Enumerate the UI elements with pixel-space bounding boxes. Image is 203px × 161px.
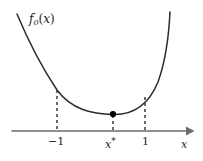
function-label-close-paren: ) xyxy=(50,12,55,26)
function-curve xyxy=(17,12,170,115)
tick-label-minus-one: −1 xyxy=(48,136,64,147)
function-label-arg: x xyxy=(43,12,50,26)
tick-label-one: 1 xyxy=(142,136,149,147)
figure-container: f0(x) −1 x* 1 x xyxy=(0,0,203,161)
tick-label-x-star: x* xyxy=(105,136,116,150)
function-label: f0(x) xyxy=(29,13,55,25)
tick-label-x-star-mark: * xyxy=(111,136,116,146)
x-axis-arrowhead xyxy=(186,127,195,136)
minimizer-dot-marker xyxy=(110,111,116,117)
function-label-subscript: 0 xyxy=(33,18,38,27)
x-axis-label: x xyxy=(181,139,187,150)
